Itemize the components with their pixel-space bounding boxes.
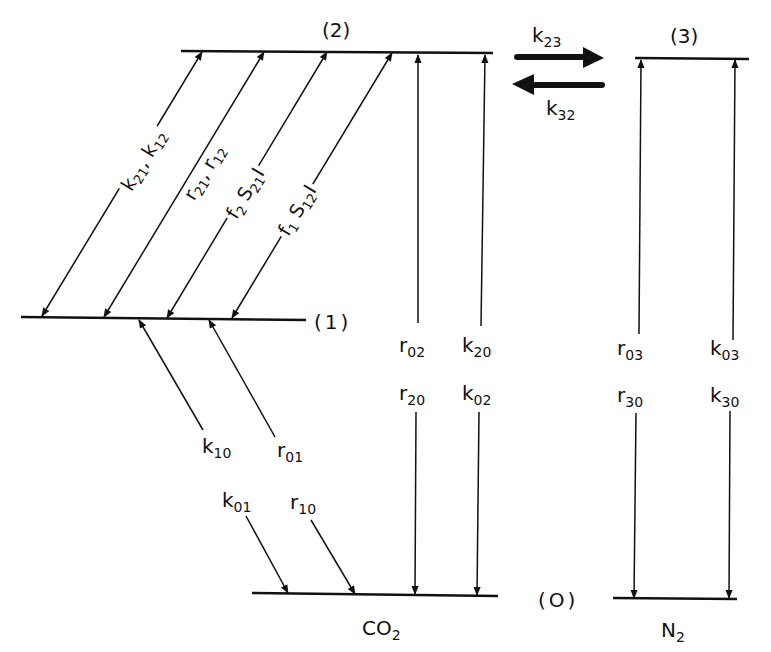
species-co2-label: CO2 xyxy=(362,618,401,642)
label-r20: r20 xyxy=(399,383,425,407)
label-k32: k32 xyxy=(546,98,575,122)
level-3-line xyxy=(635,58,749,59)
arrow-r01 xyxy=(209,320,275,437)
arrow-r20-down xyxy=(415,412,416,594)
label-k20: k20 xyxy=(462,335,491,359)
label-k10: k10 xyxy=(202,436,231,460)
label-k03: k03 xyxy=(710,338,739,362)
arrow-k10 xyxy=(139,320,203,430)
level-0-co2-line xyxy=(252,593,498,596)
arrow-r30-down xyxy=(634,413,636,598)
level-2-line xyxy=(181,51,493,53)
label-k02: k02 xyxy=(462,383,491,407)
arrow-r10 xyxy=(311,520,355,594)
level-2-label: (2) xyxy=(322,20,350,40)
arrow-k23 xyxy=(517,47,604,68)
arrow-k02-down xyxy=(477,412,479,595)
arrow-k30-down xyxy=(729,411,730,598)
level-1-label: (1) xyxy=(314,312,351,332)
label-r30: r30 xyxy=(617,385,643,409)
level-3-label: (3) xyxy=(670,26,698,46)
label-r03: r03 xyxy=(617,338,643,362)
level-0-n2-line xyxy=(613,598,737,599)
arrow-k32 xyxy=(512,74,602,95)
label-r02: r02 xyxy=(399,335,425,359)
label-k30: k30 xyxy=(710,385,739,409)
label-r10: r10 xyxy=(290,492,316,516)
label-r01: r01 xyxy=(277,440,303,464)
arrow-k20-up xyxy=(481,55,485,326)
species-n2-label: N2 xyxy=(661,620,685,644)
level-0-label: (O) xyxy=(538,590,578,610)
arrow-k01 xyxy=(246,516,288,593)
arrow-r03-up xyxy=(639,60,641,334)
level-1-line xyxy=(21,317,306,320)
energy-level-diagram xyxy=(0,0,771,652)
label-k01: k01 xyxy=(222,490,251,514)
arrow-k03-up xyxy=(733,60,735,340)
label-k23: k23 xyxy=(532,25,561,49)
